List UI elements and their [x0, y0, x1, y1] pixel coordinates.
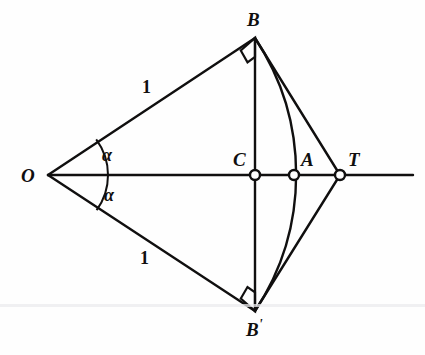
segment-length-label-OB: 1	[142, 78, 151, 96]
point-label-B-prime-mark: '	[259, 317, 263, 332]
segment-O-B	[48, 38, 255, 175]
point-label-B-prime: B'	[246, 318, 263, 339]
point-label-B: B	[247, 10, 260, 29]
angle-label-lower-alpha: α	[104, 186, 114, 204]
point-marker-A	[289, 170, 299, 180]
diagram-canvas	[0, 0, 425, 355]
point-label-B-prime-letter: B	[246, 319, 259, 340]
geometry-figure: O B B' C A T 1 1 α α	[0, 0, 425, 355]
point-marker-T	[335, 170, 345, 180]
angle-label-upper-alpha: α	[102, 146, 112, 164]
point-marker-C	[250, 170, 260, 180]
point-label-C: C	[233, 150, 246, 169]
segment-length-label-OBprime: 1	[140, 249, 149, 267]
segment-O-Bprime	[48, 175, 255, 311]
point-label-O: O	[21, 166, 35, 185]
point-label-A: A	[301, 150, 314, 169]
point-label-T: T	[348, 150, 360, 169]
